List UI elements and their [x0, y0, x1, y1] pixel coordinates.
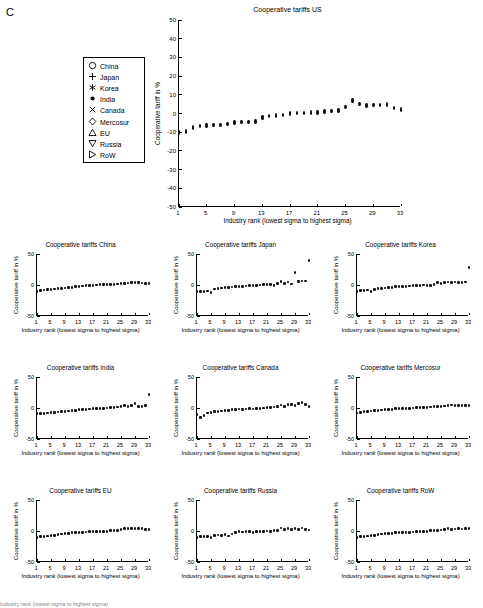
- x-axis-title: Industry rank (lowest sigma to highest s…: [0, 326, 161, 334]
- x-tick-label: 33: [140, 565, 156, 571]
- data-point: [120, 528, 122, 531]
- legend-item-korea[interactable]: Korea: [84, 83, 144, 94]
- data-point: [450, 281, 452, 284]
- data-point: [81, 531, 83, 534]
- data-point: [366, 535, 368, 538]
- chart-row: Cooperative tariffs RoW-5005015913172125…: [320, 482, 481, 605]
- data-point: [464, 281, 466, 284]
- data-point: [50, 411, 52, 414]
- data-point: [273, 406, 275, 409]
- data-point: [384, 287, 386, 290]
- data-point: [419, 406, 421, 409]
- data-point: [95, 530, 97, 533]
- data-point: [144, 282, 146, 285]
- x-tick-mark: [267, 436, 268, 439]
- data-point: [436, 281, 438, 284]
- y-tick-mark: [179, 20, 182, 21]
- data-point: [391, 408, 393, 411]
- data-point: [206, 290, 208, 293]
- y-tick-mark: [197, 316, 200, 317]
- x-axis-title: Industry rank (lowest sigma to highest s…: [0, 572, 161, 580]
- y-tick-label: 0: [19, 528, 34, 534]
- data-point: [238, 408, 240, 411]
- legend-item-china[interactable]: China: [84, 61, 144, 72]
- data-point: [123, 282, 125, 285]
- data-point: [81, 285, 83, 288]
- legend-item-row[interactable]: RoW: [84, 150, 144, 161]
- data-point: [39, 289, 41, 292]
- y-tick-mark: [197, 377, 200, 378]
- chart-mercosur: Cooperative tariffs Mercosur-50050159131…: [320, 359, 481, 482]
- data-point: [92, 284, 94, 287]
- data-point: [412, 284, 414, 287]
- data-point: [148, 528, 150, 531]
- x-tick-mark: [469, 313, 470, 316]
- data-point: [199, 416, 201, 419]
- x-tick-label: 33: [460, 319, 476, 325]
- data-point: [363, 410, 365, 413]
- x-tick-mark: [79, 559, 80, 562]
- data-point: [429, 529, 431, 532]
- y-tick-mark: [357, 316, 360, 317]
- data-point: [276, 529, 278, 532]
- y-axis-title: Cooperative tariff in %: [154, 20, 162, 207]
- data-point: [67, 286, 69, 289]
- dot-filled-icon: [84, 94, 100, 105]
- data-point: [457, 404, 459, 407]
- data-point: [248, 407, 250, 410]
- x-tick-mark: [197, 559, 198, 562]
- data-point: [408, 285, 410, 288]
- x-tick-label: 21: [309, 210, 325, 216]
- y-tick-label: -10: [161, 129, 176, 135]
- data-point: [304, 403, 306, 406]
- chart-russia: Cooperative tariffs Russia-5005015913172…: [160, 482, 321, 605]
- x-tick-label: 29: [364, 210, 380, 216]
- legend-item-eu[interactable]: EU: [84, 128, 144, 139]
- legend-item-japan[interactable]: Japan: [84, 72, 144, 83]
- data-point: [461, 528, 463, 531]
- data-point: [64, 287, 66, 290]
- x-tick-mark: [121, 313, 122, 316]
- data-point: [53, 534, 55, 537]
- legend-item-label: Japan: [100, 73, 119, 82]
- data-point: [234, 408, 236, 411]
- data-point: [468, 404, 470, 407]
- y-tick-mark: [37, 316, 40, 317]
- legend-item-mercosur[interactable]: Mercosur: [84, 117, 144, 128]
- legend-item-canada[interactable]: Canada: [84, 105, 144, 116]
- data-point: [213, 410, 215, 413]
- data-point: [113, 406, 115, 409]
- data-point: [447, 281, 449, 284]
- y-tick-label: 0: [339, 528, 354, 534]
- x-axis-title: Industry rank (lowest sigma to highest s…: [160, 449, 321, 457]
- data-point: [372, 103, 375, 107]
- x-tick-mark: [290, 204, 291, 207]
- y-tick-mark: [37, 531, 40, 532]
- data-point: [269, 283, 271, 286]
- x-tick-mark: [65, 436, 66, 439]
- data-point: [394, 285, 396, 288]
- data-point: [408, 407, 410, 410]
- data-point: [102, 530, 104, 533]
- data-point: [203, 414, 205, 417]
- x-tick-label: 33: [460, 442, 476, 448]
- panel-label-c: C: [6, 6, 14, 18]
- data-point: [308, 259, 310, 262]
- data-point: [210, 411, 212, 414]
- chart-india: Cooperative tariffs India-50050159131721…: [0, 359, 161, 482]
- data-point: [440, 529, 442, 532]
- data-point: [400, 107, 403, 111]
- x-tick-mark: [197, 313, 198, 316]
- data-point: [106, 407, 108, 410]
- data-point: [380, 287, 382, 290]
- data-point: [356, 412, 358, 415]
- data-point: [359, 535, 361, 538]
- legend-item-india[interactable]: India: [84, 94, 144, 105]
- data-point: [36, 536, 38, 539]
- y-axis-title: Cooperative tariff in %: [172, 500, 180, 562]
- x-tick-mark: [427, 313, 428, 316]
- x-tick-mark: [371, 559, 372, 562]
- y-tick-label: 30: [161, 54, 176, 60]
- legend-item-russia[interactable]: Russia: [84, 139, 144, 150]
- y-tick-mark: [357, 408, 360, 409]
